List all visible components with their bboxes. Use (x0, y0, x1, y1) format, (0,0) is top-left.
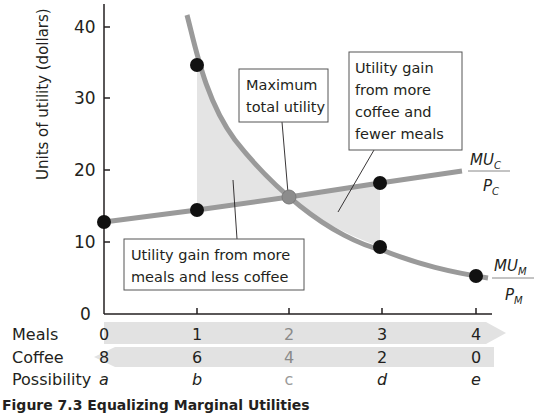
point-e-meals (469, 269, 483, 283)
svg-text:d: d (377, 370, 388, 389)
svg-text:a: a (99, 370, 109, 389)
point-c-optimum (282, 190, 296, 204)
point-a-coffee (97, 215, 111, 229)
svg-text:meals and less coffee: meals and less coffee (131, 269, 288, 285)
y-tick-0: 0 (80, 304, 91, 324)
svg-text:MUC: MUC (470, 151, 501, 171)
y-tick-40: 40 (74, 17, 96, 37)
svg-text:coffee and: coffee and (355, 104, 432, 120)
svg-text:Maximum: Maximum (246, 77, 317, 93)
annotation-max-total-utility: Maximum total utility (239, 69, 328, 122)
point-d-coffee (373, 176, 387, 190)
svg-text:e: e (471, 370, 481, 389)
svg-text:from more: from more (355, 82, 431, 98)
svg-text:2: 2 (284, 325, 294, 344)
svg-text:b: b (192, 370, 202, 389)
label-mu-coffee: MUC PC (468, 151, 510, 197)
svg-text:Utility gain: Utility gain (355, 60, 434, 76)
svg-text:4: 4 (471, 325, 481, 344)
coffee-row-label: Coffee (12, 348, 64, 367)
y-tick-20: 20 (74, 160, 96, 180)
svg-text:PM: PM (505, 286, 523, 306)
svg-text:Utility gain from more: Utility gain from more (131, 247, 290, 263)
annotation-gain-more-coffee: Utility gain from more coffee and fewer … (349, 52, 462, 150)
y-tick-30: 30 (74, 88, 96, 108)
possibility-values: a b c d e (99, 370, 481, 389)
y-axis-label: Units of utility (dollars) (34, 8, 52, 180)
annotation-gain-more-meals: Utility gain from more meals and less co… (124, 239, 304, 290)
svg-text:0: 0 (99, 325, 109, 344)
leader-max-utility (282, 122, 288, 193)
label-mu-meals: MUM PM (492, 257, 534, 306)
svg-text:2: 2 (377, 348, 387, 367)
svg-text:1: 1 (192, 325, 202, 344)
svg-text:c: c (285, 370, 294, 389)
svg-text:3: 3 (377, 325, 387, 344)
point-b-meals (190, 58, 204, 72)
x-ticks (197, 308, 476, 314)
point-b-coffee (190, 203, 204, 217)
svg-text:8: 8 (99, 348, 109, 367)
meals-row-label: Meals (12, 325, 58, 344)
y-ticks (104, 27, 110, 242)
y-tick-10: 10 (74, 232, 96, 252)
svg-text:0: 0 (471, 348, 481, 367)
svg-text:MUM: MUM (494, 257, 527, 277)
svg-text:6: 6 (192, 348, 202, 367)
meals-arrow (104, 322, 506, 344)
figure-caption: Figure 7.3 Equalizing Marginal Utilities (2, 397, 310, 413)
possibility-row-label: Possibility (12, 370, 91, 389)
svg-text:total utility: total utility (246, 99, 325, 115)
svg-text:4: 4 (284, 348, 294, 367)
svg-text:PC: PC (483, 177, 499, 197)
svg-text:fewer meals: fewer meals (355, 126, 444, 142)
point-d-meals (373, 240, 387, 254)
